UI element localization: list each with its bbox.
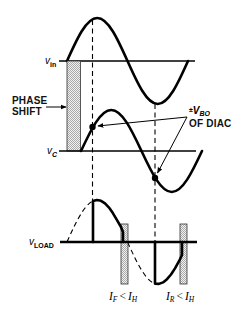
breakover-pointer-negative [158,117,188,173]
breakover-point-negative-dot [152,175,158,181]
v-c-subscript: C [52,151,58,158]
breakover-pointer-positive [98,117,187,126]
v-load-label: vLOAD [29,236,54,249]
reverse-current-subscript: R [169,295,175,304]
breakover-subscript: BO [200,110,211,117]
v-in-subscript: in [50,61,56,68]
reverse-hold-subscript: H [188,295,195,304]
v-load-conduction-positive [93,200,123,242]
v-c-label: vC [47,145,58,158]
v-load-waveform-group: vLOAD [29,200,197,284]
breakover-label-line2: OF DIAC [189,118,232,129]
v-load-subscript: LOAD [34,242,54,249]
v-load-dashed-negative [128,242,158,284]
v-load-conduction-negative [155,242,182,284]
phase-shift-bar [67,61,81,151]
forward-hold-subscript: H [131,295,138,304]
forward-holding-label: IF<IH [108,290,138,304]
phase-shift-label-line2: SHIFT [12,106,42,117]
forward-current-subscript: F [112,295,118,304]
breakover-point-positive-dot [89,124,95,130]
breakover-label-line1: ±VBO [189,105,211,117]
reverse-less-than: < [176,290,183,302]
v-in-label: vin [45,55,56,68]
forward-less-than: < [119,290,126,302]
phase-shift-label-line1: PHASE [12,95,48,106]
reverse-holding-label: IR<IH [165,290,195,304]
diac-triac-waveform-diagram: vin PHASE SHIFT vC ±VBO OF DIAC vLOAD [0,0,245,311]
